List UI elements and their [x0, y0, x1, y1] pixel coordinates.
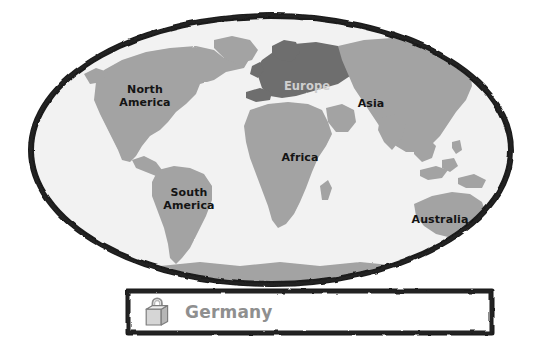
screen-root: North America Europe Asia Africa South A…: [0, 0, 543, 358]
panel-content: Germany: [125, 288, 495, 336]
shopping-bag-icon: [143, 296, 171, 328]
country-selection-panel[interactable]: Germany: [125, 288, 495, 336]
panel-country-label: Germany: [185, 302, 273, 322]
landmass-new-zealand: [494, 222, 504, 238]
